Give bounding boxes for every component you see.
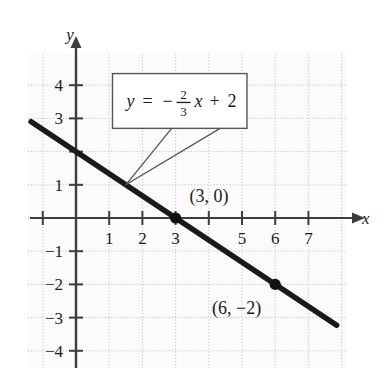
y-tick-label: −4	[45, 342, 64, 361]
coordinate-plane-chart: 123567 431−1−2−3−4 x y y = − 2 3 x + 2 (…	[0, 0, 384, 388]
y-tick-label: −2	[45, 275, 63, 294]
fraction-denominator: 3	[180, 104, 187, 119]
x-axis-label: x	[361, 209, 370, 228]
equation-minus-sign: −	[163, 91, 173, 111]
data-point-label: (3, 0)	[190, 186, 229, 207]
equation-plus-sign: +	[210, 91, 220, 111]
y-axis-label: y	[64, 25, 74, 44]
data-point-marker	[270, 279, 281, 290]
equation-intercept: 2	[228, 91, 237, 111]
y-tick-label: 1	[55, 176, 64, 195]
data-point-label: (6, −2)	[212, 298, 261, 319]
x-tick-label: 5	[238, 229, 247, 248]
y-tick-label: 3	[55, 109, 64, 128]
y-tick-label: 4	[55, 76, 64, 95]
y-tick-label: −1	[45, 242, 63, 261]
x-tick-label: 3	[171, 229, 180, 248]
fraction-numerator: 2	[180, 87, 187, 102]
x-tick-label: 7	[304, 229, 313, 248]
data-point-marker	[170, 212, 181, 223]
graph-figure: 123567 431−1−2−3−4 x y y = − 2 3 x + 2 (…	[0, 0, 384, 388]
equation-variable: x	[194, 91, 203, 111]
equation-equals-sign: =	[143, 91, 153, 111]
equation-lhs: y	[125, 91, 135, 111]
y-tick-label: −3	[45, 309, 63, 328]
x-tick-label: 6	[271, 229, 280, 248]
x-tick-label: 1	[105, 229, 114, 248]
x-tick-label: 2	[138, 229, 147, 248]
